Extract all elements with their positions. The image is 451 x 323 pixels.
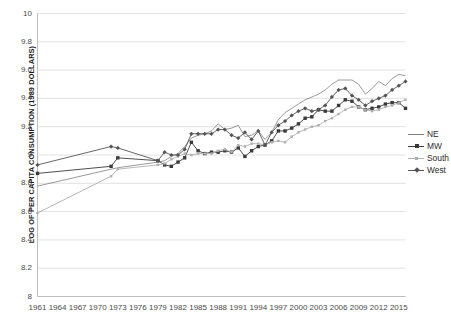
x-tick-label: 1994 xyxy=(249,303,267,312)
x-tick-label: 1964 xyxy=(49,303,67,312)
legend-swatch-icon xyxy=(407,164,425,176)
legend-swatch-icon xyxy=(407,140,425,152)
legend-item-mw[interactable]: MW xyxy=(407,140,451,152)
legend-item-ne[interactable]: NE xyxy=(407,128,451,140)
legend-label: NE xyxy=(425,129,439,139)
legend-item-south[interactable]: South xyxy=(407,152,451,164)
legend-swatch-icon xyxy=(407,152,425,164)
legend-swatch-icon xyxy=(407,128,425,140)
chart-legend: NEMWSouthWest xyxy=(407,128,451,176)
x-axis-tick-labels: 1961196419671970197319761979198219851988… xyxy=(0,0,451,323)
legend-item-west[interactable]: West xyxy=(407,164,451,176)
x-tick-label: 1961 xyxy=(29,303,47,312)
x-tick-label: 1991 xyxy=(229,303,247,312)
x-tick-label: 1982 xyxy=(169,303,187,312)
x-tick-label: 1970 xyxy=(89,303,107,312)
x-tick-label: 2009 xyxy=(350,303,368,312)
line-chart: LOG OF PER CAPITA CONSUMPTION (1989 DOLL… xyxy=(0,0,451,323)
x-tick-label: 2000 xyxy=(290,303,308,312)
x-tick-label: 2015 xyxy=(390,303,408,312)
x-tick-label: 2012 xyxy=(370,303,388,312)
legend-label: MW xyxy=(425,141,442,151)
x-tick-label: 1973 xyxy=(109,303,127,312)
legend-label: West xyxy=(425,165,446,175)
x-tick-label: 1976 xyxy=(129,303,147,312)
x-tick-label: 1979 xyxy=(149,303,167,312)
x-tick-label: 1985 xyxy=(189,303,207,312)
legend-label: South xyxy=(425,153,449,163)
x-tick-label: 2003 xyxy=(310,303,328,312)
x-tick-label: 1988 xyxy=(209,303,227,312)
x-tick-label: 2006 xyxy=(330,303,348,312)
x-tick-label: 1997 xyxy=(269,303,287,312)
x-tick-label: 1967 xyxy=(69,303,87,312)
